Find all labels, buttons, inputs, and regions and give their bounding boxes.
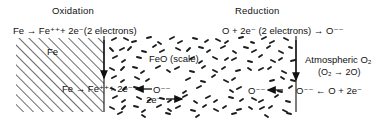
equation-reduction-bottom: O⁻⁻ ← O + 2e⁻ [296,86,362,96]
fe-metal-region [16,38,104,112]
label-electron-flux: 2e⁻ [146,95,162,105]
equation-reduction-top: O + 2e⁻ (2 electrons) → O⁻⁻ [222,26,343,36]
label-atmospheric-o2: Atmospheric O₂ [305,55,372,65]
header-reduction: Reduction [235,6,280,16]
equation-oxidation-bottom: Fe → Fe⁺⁺+ 2e⁻ [62,84,133,94]
header-oxidation: Oxidation [52,6,94,16]
label-oxide-ion-right: O⁻⁻ [248,86,265,96]
label-fe-metal: Fe [47,47,58,57]
label-feo-scale: FeO (scale) [149,54,199,64]
equation-oxidation-top: Fe → Fe⁺⁺+ 2e⁻(2 electrons) [13,26,137,36]
feo-scale-region [110,37,295,117]
label-atmospheric-dissociation: (O₂ → 2O) [318,68,361,77]
